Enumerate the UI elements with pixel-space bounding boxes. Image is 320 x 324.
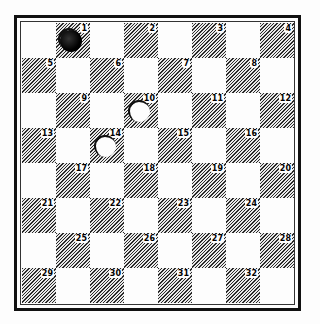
square-32: 32 — [226, 268, 260, 303]
white-piece-icon — [94, 135, 116, 157]
light-square — [226, 93, 260, 128]
light-square — [260, 268, 294, 303]
light-square — [226, 23, 260, 58]
square-5: 5 — [22, 58, 56, 93]
square-6: 6 — [90, 58, 124, 93]
square-7: 7 — [158, 58, 192, 93]
square-number: 9 — [80, 94, 88, 103]
square-3: 3 — [192, 23, 226, 58]
square-number: 19 — [211, 164, 224, 173]
square-number: 11 — [211, 94, 224, 103]
square-number: 1 — [80, 24, 88, 33]
square-number: 23 — [177, 199, 190, 208]
square-12: 12 — [260, 93, 294, 128]
square-14: 14 — [90, 128, 124, 163]
square-21: 21 — [22, 198, 56, 233]
square-number: 28 — [279, 234, 292, 243]
light-square — [22, 233, 56, 268]
square-number: 12 — [279, 94, 292, 103]
light-square — [158, 163, 192, 198]
square-number: 6 — [114, 59, 122, 68]
square-number: 15 — [177, 129, 190, 138]
square-number: 17 — [75, 164, 88, 173]
light-square — [260, 198, 294, 233]
square-24: 24 — [226, 198, 260, 233]
square-number: 18 — [143, 164, 156, 173]
light-square — [90, 93, 124, 128]
light-square — [192, 58, 226, 93]
square-16: 16 — [226, 128, 260, 163]
square-2: 2 — [124, 23, 158, 58]
light-square — [260, 58, 294, 93]
light-square — [56, 128, 90, 163]
square-29: 29 — [22, 268, 56, 303]
square-10: 10 — [124, 93, 158, 128]
square-number: 27 — [211, 234, 224, 243]
square-13: 13 — [22, 128, 56, 163]
square-20: 20 — [260, 163, 294, 198]
light-square — [192, 268, 226, 303]
light-square — [226, 163, 260, 198]
square-number: 4 — [284, 24, 292, 33]
square-number: 22 — [109, 199, 122, 208]
light-square — [192, 198, 226, 233]
square-number: 13 — [41, 129, 54, 138]
square-number: 30 — [109, 269, 122, 278]
light-square — [22, 93, 56, 128]
square-22: 22 — [90, 198, 124, 233]
light-square — [22, 23, 56, 58]
square-number: 7 — [182, 59, 190, 68]
square-number: 26 — [143, 234, 156, 243]
square-number: 24 — [245, 199, 258, 208]
square-26: 26 — [124, 233, 158, 268]
square-number: 29 — [41, 269, 54, 278]
square-11: 11 — [192, 93, 226, 128]
light-square — [56, 58, 90, 93]
square-28: 28 — [260, 233, 294, 268]
light-square — [90, 23, 124, 58]
square-number: 31 — [177, 269, 190, 278]
light-square — [90, 163, 124, 198]
light-square — [124, 58, 158, 93]
square-number: 2 — [148, 24, 156, 33]
square-number: 32 — [245, 269, 258, 278]
light-square — [124, 128, 158, 163]
light-square — [124, 268, 158, 303]
light-square — [90, 233, 124, 268]
light-square — [192, 128, 226, 163]
black-piece-icon — [60, 30, 82, 52]
checkers-board: 1234567891011121314151617181920212223242… — [22, 23, 294, 303]
square-18: 18 — [124, 163, 158, 198]
light-square — [158, 93, 192, 128]
square-number: 25 — [75, 234, 88, 243]
light-square — [124, 198, 158, 233]
square-number: 20 — [279, 164, 292, 173]
light-square — [56, 198, 90, 233]
light-square — [226, 233, 260, 268]
white-piece-icon — [128, 100, 150, 122]
square-15: 15 — [158, 128, 192, 163]
light-square — [158, 233, 192, 268]
light-square — [22, 163, 56, 198]
light-square — [260, 128, 294, 163]
square-23: 23 — [158, 198, 192, 233]
square-number: 5 — [46, 59, 54, 68]
square-8: 8 — [226, 58, 260, 93]
square-27: 27 — [192, 233, 226, 268]
square-9: 9 — [56, 93, 90, 128]
square-number: 16 — [245, 129, 258, 138]
square-31: 31 — [158, 268, 192, 303]
square-4: 4 — [260, 23, 294, 58]
square-number: 3 — [216, 24, 224, 33]
square-30: 30 — [90, 268, 124, 303]
square-19: 19 — [192, 163, 226, 198]
square-number: 8 — [250, 59, 258, 68]
light-square — [56, 268, 90, 303]
light-square — [158, 23, 192, 58]
square-25: 25 — [56, 233, 90, 268]
square-number: 21 — [41, 199, 54, 208]
square-17: 17 — [56, 163, 90, 198]
square-1: 1 — [56, 23, 90, 58]
